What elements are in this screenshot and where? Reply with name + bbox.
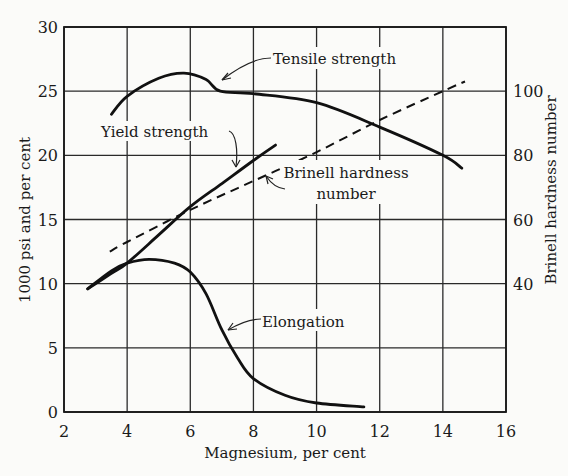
svg-text:25: 25: [38, 82, 58, 101]
svg-text:8: 8: [248, 422, 258, 441]
chart: Tensile strength Yield strength Brinell …: [0, 0, 568, 476]
svg-text:20: 20: [38, 146, 58, 165]
svg-text:0: 0: [48, 403, 58, 422]
yield-arrow-icon: [229, 131, 240, 167]
grid: [64, 27, 506, 412]
y-right-axis-label: Brinell hardness number: [542, 95, 560, 285]
y-axis-label: 1000 psi and per cent: [16, 137, 34, 303]
tensile-strength-label: Tensile strength: [273, 50, 396, 68]
y-axis-ticks: 051015202530: [38, 18, 58, 422]
svg-text:12: 12: [370, 422, 390, 441]
elongation-curve: [88, 259, 364, 407]
svg-text:4: 4: [122, 422, 132, 441]
tensile-arrow-icon: [222, 58, 271, 80]
x-axis-label: Magnesium, per cent: [204, 444, 366, 462]
brinell-label-line2: number: [316, 185, 376, 203]
x-axis-ticks: 246810121416: [59, 422, 516, 441]
svg-text:2: 2: [59, 422, 69, 441]
brinell-label-line1: Brinell hardness: [283, 164, 408, 182]
svg-text:60: 60: [513, 211, 533, 230]
tensile-strength-curve: [111, 73, 461, 168]
svg-text:16: 16: [496, 422, 516, 441]
y-right-axis-ticks: 406080100: [513, 82, 544, 294]
elongation-label: Elongation: [262, 313, 345, 331]
svg-text:80: 80: [513, 146, 533, 165]
svg-text:100: 100: [513, 82, 544, 101]
svg-text:40: 40: [513, 275, 533, 294]
elongation-arrow-icon: [228, 319, 261, 330]
svg-text:14: 14: [433, 422, 453, 441]
svg-text:30: 30: [38, 18, 58, 37]
brinell-arrow-icon: [266, 176, 285, 189]
svg-text:10: 10: [306, 422, 326, 441]
svg-text:15: 15: [38, 211, 58, 230]
svg-text:10: 10: [38, 275, 58, 294]
svg-text:5: 5: [48, 339, 58, 358]
svg-text:6: 6: [185, 422, 195, 441]
yield-strength-label: Yield strength: [100, 123, 209, 141]
